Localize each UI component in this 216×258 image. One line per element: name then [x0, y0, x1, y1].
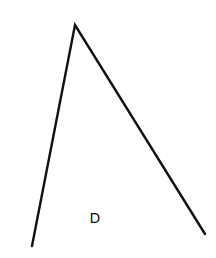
diagram-canvas: D [0, 0, 216, 258]
angle-label: D [90, 210, 101, 226]
angle-figure: D [0, 0, 216, 258]
angle-d-rays [32, 25, 205, 246]
